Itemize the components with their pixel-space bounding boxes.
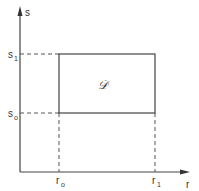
r-axis-label: r	[186, 179, 190, 190]
region-d-label: 𝒟	[98, 78, 110, 92]
r1-label-base: r	[152, 175, 156, 186]
r0-label-sub: o	[61, 181, 65, 188]
s-axis	[18, 6, 23, 172]
r-axis-arrow-icon	[180, 170, 190, 175]
r0-label-base: r	[56, 175, 60, 186]
s0-label-sub: o	[14, 114, 18, 121]
s1-label-base: s	[8, 49, 13, 60]
diagram-canvas: s r s 1 s o r o r 1 𝒟	[0, 0, 199, 191]
s0-label-base: s	[8, 108, 13, 119]
s1-label-sub: 1	[14, 55, 18, 62]
s-axis-label: s	[25, 7, 30, 18]
r1-label-sub: 1	[157, 181, 161, 188]
r-axis	[20, 170, 190, 175]
s-axis-arrow-icon	[18, 6, 23, 16]
